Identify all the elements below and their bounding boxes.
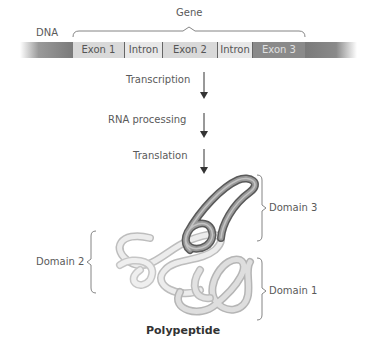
- arrow-translation: [200, 149, 208, 174]
- segment-intron-2: Intron: [218, 42, 253, 58]
- domain-3-label: Domain 3: [269, 202, 317, 213]
- segment-exon-2: Exon 2: [163, 42, 218, 58]
- gene-bar: Exon 1 Intron Exon 2 Intron Exon 3: [73, 42, 305, 58]
- segment-exon-1: Exon 1: [73, 42, 125, 58]
- domain-1-label: Domain 1: [269, 285, 317, 296]
- gene-bracket: [73, 27, 305, 37]
- domain-1-ribbon: [178, 259, 250, 311]
- polypeptide-label: Polypeptide: [146, 324, 220, 337]
- domain-2-bracket: [87, 231, 96, 293]
- segment-intron-1: Intron: [125, 42, 163, 58]
- step-translation-label: Translation: [133, 150, 188, 161]
- arrow-transcription: [200, 72, 208, 99]
- segment-exon-3: Exon 3: [253, 42, 305, 58]
- dna-flank-left: [20, 42, 73, 58]
- step-transcription-label: Transcription: [126, 74, 190, 85]
- step-rna-processing-label: RNA processing: [108, 114, 186, 125]
- arrow-rna-processing: [200, 113, 208, 138]
- dna-flank-right: [305, 42, 357, 58]
- domain-1-bracket: [257, 258, 266, 320]
- domain-2-label: Domain 2: [36, 256, 84, 267]
